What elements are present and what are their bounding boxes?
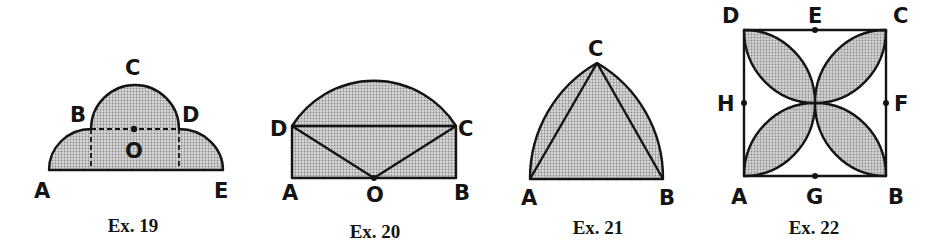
ex21-caption: Ex. 21 (573, 217, 624, 238)
ex22-label-h: H (717, 92, 735, 116)
ex22-label-d: D (722, 4, 739, 28)
ex20-shaded-region (292, 81, 456, 178)
figure-ex22: D E C H F A G B Ex. 22 (717, 4, 908, 238)
ex21-label-c: C (588, 37, 603, 61)
ex19-label-d: D (182, 103, 199, 127)
ex22-label-c: C (893, 4, 908, 28)
ex20-label-c: C (458, 117, 473, 141)
ex20-point-o (371, 175, 377, 181)
figure-ex19: A B C D E O Ex. 19 (34, 56, 228, 236)
ex22-label-a: A (731, 185, 748, 209)
ex22-label-g: G (806, 185, 823, 209)
ex20-label-b: B (454, 181, 470, 205)
ex20-caption: Ex. 20 (350, 221, 401, 242)
ex19-label-o: O (125, 139, 143, 163)
ex22-label-b: B (888, 185, 904, 209)
ex19-label-a: A (34, 179, 51, 203)
ex19-label-b: B (70, 103, 86, 127)
figure-ex20: D C A O B Ex. 20 (270, 81, 473, 242)
ex20-label-o: O (366, 183, 384, 207)
ex19-caption: Ex. 19 (108, 215, 159, 236)
figure-ex21: C A B Ex. 21 (521, 37, 675, 238)
ex22-label-f: F (894, 92, 908, 116)
ex21-shaded-region (530, 63, 663, 179)
ex19-point-o (131, 126, 137, 132)
ex22-point-h (741, 100, 747, 106)
ex22-point-f (883, 100, 889, 106)
ex21-label-a: A (521, 186, 538, 210)
ex22-point-g (812, 173, 818, 179)
ex21-label-b: B (659, 186, 675, 210)
ex22-label-e: E (808, 4, 822, 28)
ex19-label-e: E (214, 179, 228, 203)
ex22-caption: Ex. 22 (789, 217, 840, 238)
figures-canvas: A B C D E O Ex. 19 D C A O B Ex. 20 C A … (0, 0, 937, 251)
ex20-label-a: A (282, 181, 299, 205)
ex20-label-d: D (270, 117, 287, 141)
ex19-label-c: C (125, 56, 140, 80)
